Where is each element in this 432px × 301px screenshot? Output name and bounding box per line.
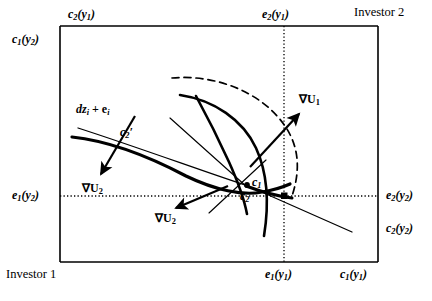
- axis-label-e1-y1: e1(y1): [265, 268, 292, 282]
- annotation-c2-prime-mark: ′: [130, 125, 133, 139]
- axis-label-e2-y1: e2(y1): [262, 8, 289, 22]
- gradient-arrow-u1: [250, 114, 299, 167]
- axis-label-e2-y1-close: ): [285, 7, 289, 21]
- annotation-budget-line: dzi + ei: [76, 103, 110, 117]
- corner-label-investor2: Investor 2: [354, 6, 404, 19]
- annotation-point-c1-sub: 1: [257, 181, 261, 190]
- axis-label-c2-y1: c2(y1): [68, 8, 95, 22]
- axis-label-c1-y2-close: ): [35, 32, 39, 46]
- annotation-c2-prime: c2′: [120, 126, 133, 140]
- axis-label-e2-y2-close: ): [409, 188, 413, 202]
- axis-label-c2-y1-arg: (y: [78, 7, 87, 21]
- axis-label-e1-y2-arg: (y: [22, 188, 31, 202]
- axis-label-c2-y2-arg: (y: [396, 221, 405, 235]
- annotation-gradient-u2-mid: ∇U2: [155, 212, 176, 226]
- annotation-gradient-u1: ∇U1: [299, 93, 320, 107]
- annotation-gradient-u2-mid-sub: 2: [172, 217, 176, 226]
- axis-label-e2-y1-arg: (y: [272, 7, 281, 21]
- annotation-point-c2: c2: [240, 190, 250, 204]
- axis-label-c2-y2-close: ): [409, 221, 413, 235]
- gradient-arrow-u2-mid: [176, 186, 228, 208]
- annotation-gradient-u1-base: ∇U: [299, 92, 316, 106]
- annotation-budget-line-plus: + e: [89, 102, 107, 116]
- annotation-budget-line-sub2: i: [107, 108, 109, 117]
- axis-label-e1-y1-arg: (y: [275, 267, 284, 281]
- axis-label-e1-y2: e1(y2): [12, 189, 39, 203]
- edgeworth-box-figure: Investor 2 Investor 1 c2(y1) e2(y1) c1(y…: [0, 0, 432, 301]
- annotation-gradient-u2-left-base: ∇U: [82, 181, 99, 195]
- axis-label-c2-y1-close: ): [91, 7, 95, 21]
- corner-label-investor1: Investor 1: [6, 268, 56, 281]
- annotation-point-c2-sub: 2: [245, 195, 249, 204]
- annotation-gradient-u1-sub: 1: [316, 98, 320, 107]
- axis-label-e1-y1-close: ): [288, 267, 292, 281]
- point-e-marker: [281, 193, 288, 200]
- annotation-gradient-u2-left-sub: 2: [99, 187, 103, 196]
- axis-label-c1-y2: c1(y2): [12, 33, 39, 47]
- annotation-gradient-u2-mid-base: ∇U: [155, 211, 172, 225]
- axis-label-e2-y2-arg: (y: [396, 188, 405, 202]
- axis-label-e2-y2: e2(y2): [386, 189, 413, 203]
- axis-label-c1-y2-arg: (y: [22, 32, 31, 46]
- axis-label-c1-y1-arg: (y: [350, 267, 359, 281]
- annotation-budget-line-dz: dz: [76, 102, 87, 116]
- diagram-canvas: [0, 0, 432, 301]
- annotation-point-c1: c1: [252, 176, 262, 190]
- axis-label-c1-y1: c1(y1): [340, 268, 367, 282]
- axis-label-c1-y1-close: ): [363, 267, 367, 281]
- axis-label-e1-y2-close: ): [35, 188, 39, 202]
- axis-label-c2-y2: c2(y2): [386, 222, 413, 236]
- annotation-gradient-u2-left: ∇U2: [82, 182, 103, 196]
- point-c1-marker: [244, 182, 250, 188]
